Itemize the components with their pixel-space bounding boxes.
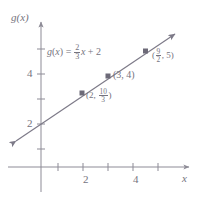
point-a-y-numerator: 10 (99, 88, 108, 96)
x-axis-label: x (182, 173, 187, 184)
graph-figure: g(x) x 4 2 2 4 g(x) = 23x + 2 (2, 103) (… (0, 0, 200, 198)
equation-slope-fraction: 23 (74, 44, 80, 62)
equation-slope-numerator: 2 (74, 44, 80, 52)
point-label-9-2-5: (92, 5) (152, 48, 174, 64)
point-c-x-denominator: 2 (156, 55, 162, 64)
x-axis (8, 163, 189, 171)
y-axis-label: g(x) (11, 12, 29, 23)
x-tick-label-4: 4 (133, 174, 139, 185)
x-tick-label-2: 2 (83, 174, 89, 185)
point-c-x-numerator: 9 (156, 48, 162, 56)
point-label-2-10-3: (2, 103) (86, 88, 111, 104)
point-a-y-fraction: 103 (99, 88, 108, 104)
comma-a: , (94, 90, 99, 100)
point-marker-9-2-5 (143, 49, 148, 54)
equation-annotation: g(x) = 23x + 2 (47, 44, 101, 62)
equation-slope-denominator: 3 (74, 52, 80, 61)
paren-close-a: ) (108, 90, 111, 100)
equation-intercept: 2 (96, 46, 101, 57)
equation-equals: = (66, 46, 72, 57)
y-tick-label-4: 4 (27, 68, 33, 79)
equation-close-paren: ) (60, 46, 63, 57)
paren-close-c: ) (171, 50, 174, 60)
point-a-y-denominator: 3 (99, 95, 108, 104)
equation-variable-2: x (81, 46, 85, 57)
equation-plus: + (88, 46, 94, 57)
point-marker-3-4 (106, 74, 111, 79)
point-marker-2-10-3 (80, 91, 85, 96)
y-tick-label-2: 2 (27, 118, 33, 129)
point-c-x-fraction: 92 (156, 48, 162, 64)
point-label-3-4: (3, 4) (113, 70, 135, 80)
